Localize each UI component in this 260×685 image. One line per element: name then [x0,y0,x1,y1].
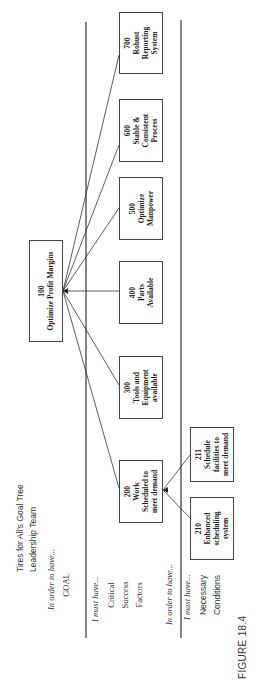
box-number: 500 [128,203,137,214]
figure-title: Tires for All's Goal Tree Leadership Tea… [14,484,40,572]
box-number: 210 [194,523,203,534]
csf-level-label: Critical Success Factors [104,570,146,620]
box-number: 300 [123,382,132,393]
csf-box-400: 400 Parts Available [119,261,163,324]
nc-box-211: 211 Schedule facilities to meet demand [190,427,234,482]
box-number: 211 [194,449,203,460]
box-label: Stable & Consistent Process [132,114,159,148]
figure-caption: FIGURE 18.4 [237,616,248,679]
box-label: Enhanced scheduling system [203,511,230,545]
csf-box-600: 600 Stable & Consistent Process [119,99,163,162]
box-label: Optimize Profit Margins [46,252,55,331]
box-label: Tools and Equipment available [132,370,159,406]
box-label: Optimize Manpower [137,191,155,226]
box-number: 700 [123,37,132,48]
box-number: 400 [128,287,137,298]
nc-connector-label-upper: In order to have... [164,564,174,625]
goal-connector-label: In order to have... [46,549,56,610]
goal-level-label: GOAL [59,565,73,605]
box-number: 100 [37,285,46,296]
box-label: Robust Reporting System [132,27,159,60]
nc-level-label: Necessary Conditions [196,567,224,623]
box-label: Work Scheduled to meet demand [132,470,159,513]
goal-box-100: 100 Optimize Profit Margins [29,240,63,342]
box-label: Parts Available [137,278,155,308]
nc-box-210: 210 Enhanced scheduling system [190,497,234,560]
csf-box-300: 300 Tools and Equipment available [119,356,163,419]
csf-box-200: 200 Work Scheduled to meet demand [119,460,163,523]
csf-box-700: 700 Robust Reporting System [119,12,163,74]
goal-tree-figure: Tires for All's Goal Tree Leadership Tea… [0,0,260,685]
nc-connector-label: I must have... [182,574,192,620]
box-number: 600 [123,125,132,136]
csf-connector-label: I must have... [90,576,100,622]
box-label: Schedule facilities to meet demand [203,433,230,476]
csf-box-500: 500 Optimize Manpower [119,177,163,240]
box-number: 200 [123,486,132,497]
